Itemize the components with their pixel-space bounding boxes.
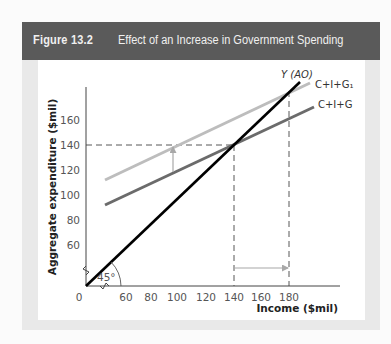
x-tick-0: 0 [76, 291, 83, 303]
y-tick-60: 60 [67, 239, 80, 251]
x-tick-140: 140 [224, 291, 244, 303]
label-CIG: C+I+G [318, 99, 352, 110]
y-tick-120: 120 [60, 164, 80, 176]
x-tick-60: 60 [119, 291, 132, 303]
line-CIG [105, 107, 314, 205]
chart: 160 140 120 100 80 60 0 60 80 100 120 14… [0, 0, 391, 344]
angle-label: 45° [97, 271, 116, 283]
x-tick-80: 80 [144, 291, 157, 303]
line-CIG1 [105, 83, 310, 180]
y-tick-80: 80 [67, 214, 80, 226]
y-axis-title: Aggregate expenditure ($mil) [46, 99, 58, 275]
y-tick-140: 140 [60, 139, 80, 151]
x-tick-100: 100 [167, 291, 187, 303]
label-CIG1: C+I+G₁ [315, 79, 353, 90]
x-axis-title: Income ($mil) [256, 302, 338, 314]
label-AO: Y (AO) [281, 69, 313, 80]
line-AO-45deg [86, 82, 300, 286]
y-tick-100: 100 [60, 189, 80, 201]
x-tick-120: 120 [196, 291, 216, 303]
y-tick-160: 160 [60, 114, 80, 126]
